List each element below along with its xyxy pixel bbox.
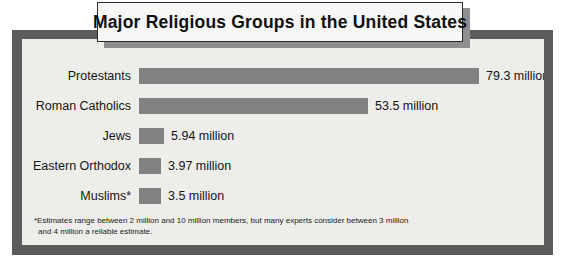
bar-row: Protestants79.3 million [22,61,544,91]
page-title: Major Religious Groups in the United Sta… [93,12,467,33]
bar-value-label: 79.3 million [479,69,544,83]
bar-value-label: 3.97 million [161,159,231,173]
title-plaque: Major Religious Groups in the United Sta… [97,2,463,42]
bar [139,188,161,204]
chart-footnote: *Estimates range between 2 million and 1… [34,215,526,238]
bar [139,98,368,114]
bar-row: Eastern Orthodox3.97 million [22,151,544,181]
bar [139,128,164,144]
bar-container: 3.5 million [139,188,544,204]
bar-container: 3.97 million [139,158,544,174]
footnote-line-2: and 4 million a reliable estimate. [34,226,526,238]
bar-row: Muslims*3.5 million [22,181,544,211]
bar-value-label: 3.5 million [161,189,224,203]
bar [139,158,161,174]
bar-container: 79.3 million [139,68,544,84]
bar-container: 5.94 million [139,128,544,144]
bar-category-label: Protestants [22,69,139,83]
bar-value-label: 5.94 million [164,129,234,143]
bar-value-label: 53.5 million [368,99,438,113]
bar-row: Roman Catholics53.5 million [22,91,544,121]
bar-row: Jews5.94 million [22,121,544,151]
bar-container: 53.5 million [139,98,544,114]
footnote-line-1: *Estimates range between 2 million and 1… [34,215,526,227]
bar-category-label: Eastern Orthodox [22,159,139,173]
bar-category-label: Roman Catholics [22,99,139,113]
bar-category-label: Jews [22,129,139,143]
chart-surface: Protestants79.3 millionRoman Catholics53… [22,39,544,245]
bar-category-label: Muslims* [22,189,139,203]
chart-frame: Protestants79.3 millionRoman Catholics53… [12,30,553,255]
bar [139,68,479,84]
